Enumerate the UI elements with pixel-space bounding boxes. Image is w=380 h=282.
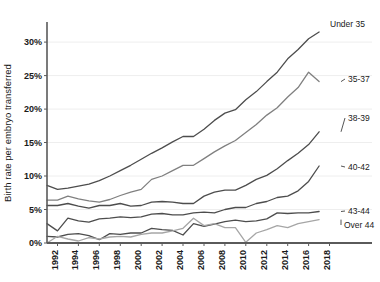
x-axis-tick-label: 2014 [280,250,290,270]
x-axis-tick-label: 1998 [112,250,122,270]
series-label-over-44: Over 44 [344,220,375,230]
x-axis-tick-label: 1994 [70,250,80,270]
gridlines-group [47,42,372,209]
series-end-labels: Under 3535-3738-3940-4243-44Over 44 [330,19,375,230]
chart-container: 0%5%10%15%20%25%30% 19921994199619982000… [0,0,380,282]
series-label-43-44-leader [341,211,345,212]
x-axis-tick-label: 2002 [154,250,164,270]
x-axis-tick-labels: 1992199419961998200020022004200620082010… [50,243,332,270]
y-axis-tick-label: 10% [24,171,42,181]
y-axis-tick-labels: 0%5%10%15%20%25%30% [24,37,47,248]
series-label-under-35: Under 35 [330,19,365,29]
series-label-43-44: 43-44 [348,206,370,216]
series-label-40-42-leader [341,166,345,167]
x-axis-tick-label: 1992 [50,250,60,270]
series-label-40-42: 40-42 [348,162,370,172]
x-axis-tick-label: 2006 [196,250,206,270]
y-axis-tick-label: 20% [24,104,42,114]
series-label-38-39-leader [341,118,345,132]
x-axis-tick-label: 2016 [301,250,311,270]
series-label-35-37-leader [341,79,345,82]
x-axis-tick-label: 2008 [217,250,227,270]
x-axis-tick-label: 2000 [133,250,143,270]
y-axis-tick-label: 15% [24,138,42,148]
x-axis-tick-label: 2018 [322,250,332,270]
y-axis-tick-label: 0% [29,238,42,248]
x-axis-tick-label: 2010 [238,250,248,270]
y-axis-title: Birth rate per embryo transferred [2,64,13,202]
series-label-38-39: 38-39 [348,113,370,123]
y-axis-tick-label: 30% [24,37,42,47]
x-axis-tick-label: 1996 [91,250,101,270]
line-chart: 0%5%10%15%20%25%30% 19921994199619982000… [0,0,380,282]
y-axis-tick-label: 25% [24,71,42,81]
x-axis-tick-label: 2012 [259,250,269,270]
x-axis-tick-label: 2004 [175,250,185,270]
series-label-35-37: 35-37 [348,74,370,84]
y-axis-tick-label: 5% [29,205,42,215]
series-lines-group [47,32,319,243]
